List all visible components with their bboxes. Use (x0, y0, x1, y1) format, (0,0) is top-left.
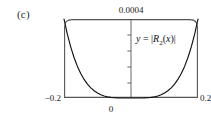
x-axis-max-label: 0.2 (200, 94, 211, 103)
figure-panel: (c) 0.0004 −0.2 0.2 0 y = |R2(x)| (0, 0, 211, 127)
y-axis-max-label: 0.0004 (64, 6, 198, 15)
x-axis-min-label: −0.2 (33, 94, 61, 103)
equation-equals: = (143, 33, 149, 44)
figure-caption: (c) (17, 9, 30, 20)
x-axis-zero-label: 0 (97, 105, 125, 114)
plot-svg (64, 19, 198, 98)
plot-area (64, 19, 198, 98)
curve-equation-label: y = |R2(x)| (136, 34, 176, 47)
equation-lhs: y (136, 33, 140, 44)
equation-bar-close: | (174, 33, 176, 44)
